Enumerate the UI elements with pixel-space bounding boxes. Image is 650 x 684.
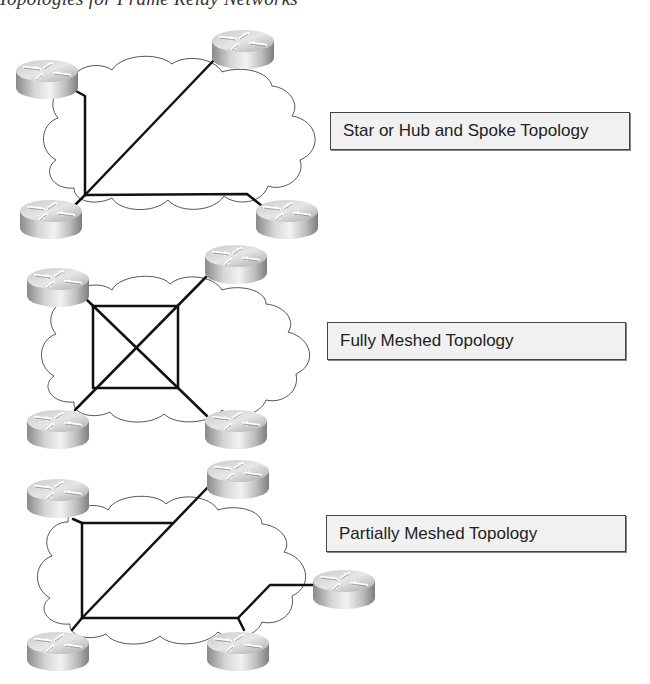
router-icon [205,245,267,284]
router-icon [205,410,267,449]
router-icon [207,460,269,499]
full-mesh-topology-label: Fully Meshed Topology [327,322,626,360]
router-icon [256,200,318,239]
star-topology [16,30,318,239]
router-icon [20,200,82,239]
router-icon [27,479,89,518]
router-icon [27,268,89,307]
router-icon [212,30,274,69]
partial-mesh-topology [27,460,375,671]
router-icon [313,570,375,609]
router-icon [207,632,269,671]
router-icon [16,60,78,99]
router-icon [27,410,89,449]
router-icon [27,632,89,671]
full-mesh-topology [27,245,310,449]
star-topology-label: Star or Hub and Spoke Topology [330,112,630,150]
partial-mesh-topology-label: Partially Meshed Topology [326,515,626,552]
